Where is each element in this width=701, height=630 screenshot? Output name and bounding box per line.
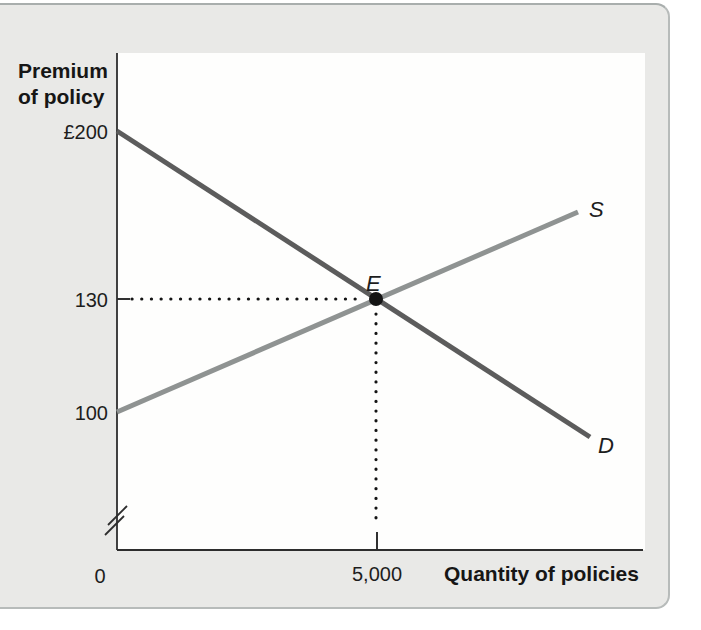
supply-curve-label: S (589, 197, 604, 222)
y-tick-label-200: £200 (64, 121, 109, 143)
y-axis-title-line1: Premium (18, 59, 108, 82)
equilibrium-label: E (366, 271, 381, 296)
figure-canvas: Premium of policy £200 130 100 0 5,000 Q… (0, 0, 701, 630)
y-axis-title-line2: of policy (18, 85, 105, 108)
supply-demand-chart: Premium of policy £200 130 100 0 5,000 Q… (0, 0, 701, 630)
x-tick-label-5000: 5,000 (352, 563, 402, 585)
y-tick-label-100: 100 (75, 402, 108, 424)
demand-curve-label: D (598, 433, 614, 458)
x-tick-label-0: 0 (94, 565, 105, 587)
x-axis-title: Quantity of policies (444, 562, 639, 585)
y-tick-label-130: 130 (75, 289, 108, 311)
